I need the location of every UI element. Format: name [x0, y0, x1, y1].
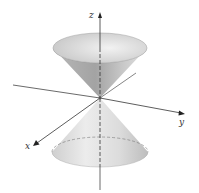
y-axis-line [100, 98, 181, 113]
x-arrow-icon [33, 140, 40, 146]
double-cone-diagram: z y x [0, 0, 199, 193]
neg-y-axis-line [13, 85, 100, 98]
y-axis-label: y [178, 117, 185, 127]
y-arrow-icon [179, 111, 186, 116]
x-axis-label: x [25, 141, 30, 151]
z-axis-label: z [88, 10, 94, 20]
z-arrow-icon [98, 12, 102, 18]
lower-nappe [52, 98, 148, 167]
vertex-point [99, 97, 102, 100]
